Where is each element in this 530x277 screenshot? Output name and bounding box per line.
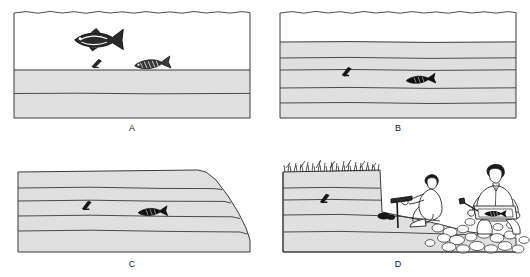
panel-b-label: B (395, 123, 401, 133)
panel-a: A (14, 11, 250, 133)
panel-c-label: C (129, 259, 136, 269)
panel-a-bedding-line (14, 93, 250, 94)
fossilization-figure: A B (0, 0, 530, 277)
panel-d: D (283, 160, 529, 269)
panel-b-sediment (280, 42, 516, 118)
panel-b: B (280, 11, 516, 133)
panel-c-rock-body (18, 170, 250, 252)
panel-c: C (18, 170, 250, 269)
panel-d-label: D (395, 259, 402, 269)
fossil-sequence-diagram: A B (0, 0, 530, 277)
fossil-lump-at-cliff-base (378, 212, 396, 219)
panel-a-label: A (129, 123, 135, 133)
panel-b-water (280, 13, 516, 42)
panel-a-water (14, 13, 250, 70)
panel-b-bedding-line-1 (280, 42, 516, 43)
